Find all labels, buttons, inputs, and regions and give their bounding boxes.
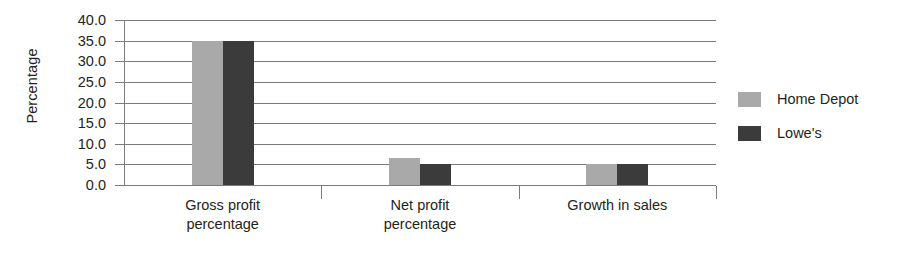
y-axis-tick-label: 0.0 [44,178,106,193]
y-axis-tick-label: 30.0 [44,54,106,69]
y-axis-tick-mark [115,61,124,62]
legend: Home DepotLowe's [738,82,858,150]
category-label-line: Gross profit [124,196,321,215]
y-axis-tick-mark [115,20,124,21]
bar-1-0 [223,41,254,185]
y-axis-tick-mark [115,41,124,42]
y-axis-tick-label: 40.0 [44,13,106,28]
category-label-line: Net profit [321,196,518,215]
y-axis-tick-label: 5.0 [44,157,106,172]
x-axis-end-tick [716,186,717,199]
gridline [124,20,716,21]
legend-label: Lowe's [777,125,822,141]
y-axis-tick-label: 35.0 [44,33,106,48]
y-axis-tick-mark [115,164,124,165]
x-axis-category-labels: Gross profitpercentageNet profitpercenta… [124,196,716,248]
legend-label: Home Depot [777,91,858,107]
y-axis-tick-label: 15.0 [44,116,106,131]
category-label-2: Growth in sales [519,196,716,215]
y-axis-tick-mark [115,103,124,104]
plot-area [124,20,716,185]
category-label-1: Net profitpercentage [321,196,518,234]
legend-swatch-icon [738,92,761,107]
y-axis-tick-label: 20.0 [44,95,106,110]
y-axis-tick-mark [115,144,124,145]
category-label-line: percentage [124,215,321,234]
bar-0-1 [389,158,420,185]
y-axis-tick-label: 10.0 [44,137,106,152]
category-label-line: Growth in sales [519,196,716,215]
category-label-0: Gross profitpercentage [124,196,321,234]
y-axis-tick-labels: 40.035.030.025.020.015.010.05.00.0 [44,20,106,185]
y-axis-tick-label: 25.0 [44,75,106,90]
y-axis-tick-mark [115,82,124,83]
y-axis-title: Percentage [24,6,40,166]
category-label-line: percentage [321,215,518,234]
bar-0-2 [586,164,617,185]
gridline [124,185,716,186]
bar-1-1 [420,164,451,185]
legend-item-0[interactable]: Home Depot [738,82,858,116]
y-axis-tick-mark [115,185,124,186]
legend-swatch-icon [738,126,761,141]
y-axis-tick-mark [115,123,124,124]
legend-item-1[interactable]: Lowe's [738,116,858,150]
bar-chart: Percentage 40.035.030.025.020.015.010.05… [0,0,922,254]
bar-0-0 [192,41,223,185]
bar-1-2 [617,164,648,185]
